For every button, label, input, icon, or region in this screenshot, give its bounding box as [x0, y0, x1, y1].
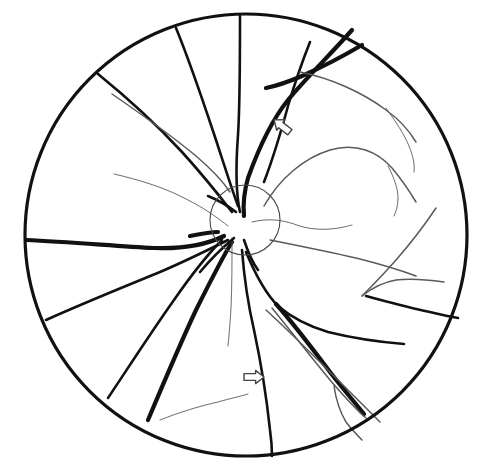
diagram-background: [0, 0, 490, 474]
fundus-diagram-root: [0, 0, 490, 474]
fundus-diagram-canvas: [0, 0, 490, 474]
